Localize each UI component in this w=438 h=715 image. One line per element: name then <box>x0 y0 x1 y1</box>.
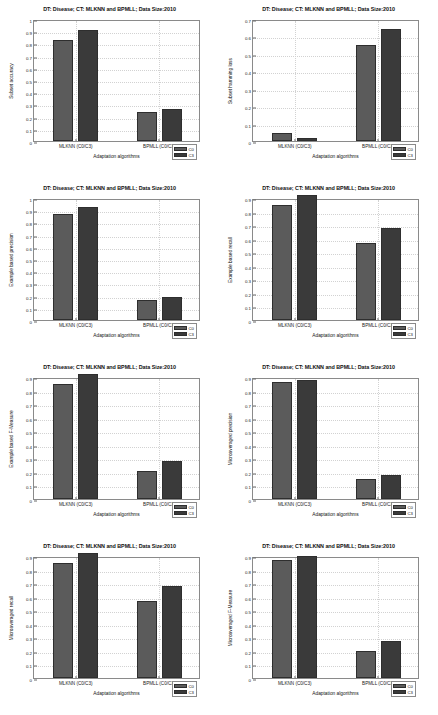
y-tick-mark <box>253 433 256 434</box>
x-tick-mark <box>294 318 295 321</box>
y-tick-label: 0 <box>249 499 251 504</box>
plot-area: 00.10.20.30.40.50.60.70.80.91MLKNN (C0/C… <box>33 20 200 142</box>
y-tick-label: 0.2 <box>26 295 32 300</box>
y-tick-label: 0.7 <box>245 19 251 24</box>
y-tick-label: 0 <box>30 141 32 146</box>
legend-item-c3[interactable]: C3 <box>174 331 195 337</box>
legend-swatch-icon <box>174 505 187 510</box>
bar-c0-bpmll <box>356 45 376 141</box>
legend-item-c3[interactable]: C3 <box>393 510 414 516</box>
chart-legend[interactable]: C0C3 <box>172 144 197 160</box>
chart-title: DT: Disease; CT: MLKNN and BPMLL; Data S… <box>219 6 438 13</box>
bar-c3-bpmll <box>381 29 401 141</box>
bar-c3-mlknn <box>78 207 98 320</box>
y-tick-label: 0.4 <box>26 444 32 449</box>
y-tick-label: 0.8 <box>26 222 32 227</box>
y-tick-label: 0.5 <box>26 431 32 436</box>
figure-grid: DT: Disease; CT: MLKNN and BPMLL; Data S… <box>0 0 438 715</box>
gridline-vertical <box>378 21 379 141</box>
gridline-vertical <box>76 558 77 678</box>
y-tick-mark <box>34 297 37 298</box>
gridline-vertical <box>295 21 296 141</box>
chart-legend[interactable]: C0C3 <box>172 681 197 697</box>
legend-item-c3[interactable]: C3 <box>393 152 414 158</box>
y-tick-mark <box>34 446 37 447</box>
y-tick-label: 0.1 <box>245 123 251 128</box>
gridline-vertical <box>159 200 160 320</box>
x-tick-mark <box>159 139 160 142</box>
y-tick-mark <box>253 200 256 201</box>
y-tick-label: 0.7 <box>26 583 32 588</box>
y-tick-label: 0.3 <box>245 637 251 642</box>
y-tick-mark <box>253 125 256 126</box>
x-tick-mark <box>294 676 295 679</box>
bar-c0-mlknn <box>272 560 292 678</box>
y-tick-mark <box>34 118 37 119</box>
y-tick-label: 0.3 <box>26 637 32 642</box>
y-tick-label: 0.3 <box>245 88 251 93</box>
legend-item-c3[interactable]: C3 <box>174 689 195 695</box>
y-tick-mark <box>34 585 37 586</box>
x-tick-mark <box>75 318 76 321</box>
bar-c3-mlknn <box>78 374 98 499</box>
legend-item-c3[interactable]: C3 <box>393 331 414 337</box>
y-tick-mark <box>253 267 256 268</box>
x-tick-label: MLKNN (C0/C3) <box>59 681 92 687</box>
y-tick-mark <box>253 21 256 22</box>
legend-swatch-icon <box>174 511 187 516</box>
legend-label: C0 <box>408 505 414 510</box>
chart-legend[interactable]: C0C3 <box>391 502 416 518</box>
bar-c3-bpmll <box>381 475 401 499</box>
plot-area: 00.10.20.30.40.50.60.70.80.91MLKNN (C0/C… <box>33 199 200 321</box>
bar-c0-bpmll <box>356 243 376 320</box>
chart-legend[interactable]: C0C3 <box>391 681 416 697</box>
chart-legend[interactable]: C0C3 <box>172 323 197 339</box>
bar-c3-bpmll <box>162 586 182 678</box>
y-tick-mark <box>34 379 37 380</box>
y-tick-label: 0.4 <box>245 444 251 449</box>
bar-c0-mlknn <box>53 40 73 141</box>
y-tick-mark <box>34 130 37 131</box>
legend-label: C0 <box>189 147 195 152</box>
plot-area: 00.10.20.30.40.50.60.70.80.9MLKNN (C0/C3… <box>252 378 419 500</box>
y-tick-label: 0.6 <box>245 238 251 243</box>
y-tick-label: 0 <box>249 141 251 146</box>
y-tick-mark <box>34 598 37 599</box>
legend-label: C3 <box>408 511 414 516</box>
y-tick-label: 0.8 <box>245 390 251 395</box>
legend-item-c3[interactable]: C3 <box>393 689 414 695</box>
legend-item-c3[interactable]: C3 <box>174 152 195 158</box>
y-tick-mark <box>34 501 37 502</box>
y-tick-label: 0.5 <box>245 53 251 58</box>
y-tick-mark <box>253 254 256 255</box>
y-tick-label: 0.3 <box>26 104 32 109</box>
y-tick-mark <box>253 666 256 667</box>
plot-area: 00.10.20.30.40.50.60.70.80.9MLKNN (C0/C3… <box>252 557 419 679</box>
y-tick-mark <box>253 90 256 91</box>
chart-legend[interactable]: C0C3 <box>172 502 197 518</box>
y-tick-label: 0.4 <box>26 271 32 276</box>
legend-swatch-icon <box>174 332 187 337</box>
legend-item-c3[interactable]: C3 <box>174 510 195 516</box>
gridline-vertical <box>295 558 296 678</box>
bar-c3-bpmll <box>381 228 401 320</box>
x-tick-label: MLKNN (C0/C3) <box>59 144 92 150</box>
gridline-vertical <box>295 200 296 320</box>
y-tick-mark <box>34 82 37 83</box>
y-tick-label: 0.7 <box>26 234 32 239</box>
chart-legend[interactable]: C0C3 <box>391 323 416 339</box>
x-tick-mark <box>75 139 76 142</box>
y-tick-mark <box>34 473 37 474</box>
chart-legend[interactable]: C0C3 <box>391 144 416 160</box>
bar-c0-bpmll <box>137 300 157 320</box>
chart-panel-3: DT: Disease; CT: MLKNN and BPMLL; Data S… <box>0 179 219 358</box>
bar-c0-mlknn <box>272 382 292 499</box>
y-tick-mark <box>34 666 37 667</box>
y-tick-mark <box>253 308 256 309</box>
y-axis-label: Microaveraged recall <box>9 557 14 679</box>
x-tick-mark <box>378 676 379 679</box>
y-tick-label: 0.1 <box>26 485 32 490</box>
y-tick-mark <box>34 392 37 393</box>
y-tick-label: 0.6 <box>245 36 251 41</box>
x-tick-label: BPMLL (C0/C3) <box>143 144 175 150</box>
